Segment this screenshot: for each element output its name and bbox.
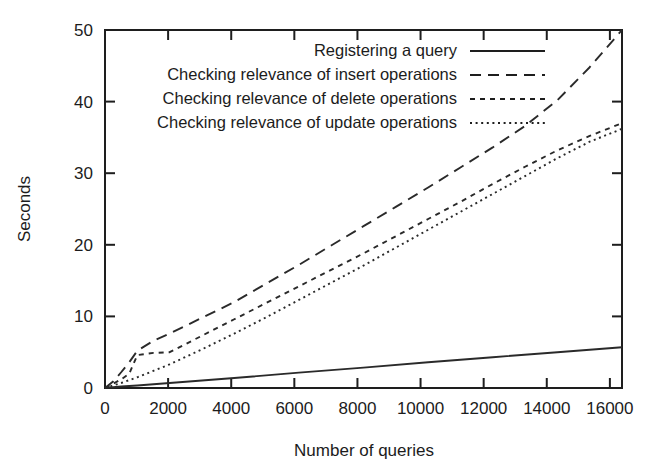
x-tick-label: 0 bbox=[100, 399, 109, 418]
x-tick-label: 8000 bbox=[339, 399, 377, 418]
x-tick-label: 16000 bbox=[586, 399, 633, 418]
y-tick-label: 0 bbox=[84, 379, 93, 398]
y-tick-label: 10 bbox=[74, 307, 93, 326]
x-axis-tick-labels: 0200040006000800010000120001400016000 bbox=[100, 399, 633, 418]
y-axis-title: Seconds bbox=[15, 176, 34, 242]
legend-label-2: Checking relevance of delete operations bbox=[163, 89, 457, 107]
x-tick-label: 12000 bbox=[460, 399, 507, 418]
legend-label-3: Checking relevance of update operations bbox=[157, 113, 457, 131]
legend-label-1: Checking relevance of insert operations bbox=[167, 65, 457, 83]
x-tick-label: 6000 bbox=[275, 399, 313, 418]
y-tick-label: 30 bbox=[74, 164, 93, 183]
x-tick-label: 4000 bbox=[212, 399, 250, 418]
line-chart: 01020304050 0200040006000800010000120001… bbox=[0, 0, 647, 468]
y-tick-label: 40 bbox=[74, 93, 93, 112]
chart-figure: 01020304050 0200040006000800010000120001… bbox=[0, 0, 647, 468]
x-tick-label: 10000 bbox=[397, 399, 444, 418]
x-tick-label: 2000 bbox=[149, 399, 187, 418]
legend-label-0: Registering a query bbox=[314, 41, 458, 59]
y-tick-label: 50 bbox=[74, 21, 93, 40]
y-tick-label: 20 bbox=[74, 236, 93, 255]
x-tick-label: 14000 bbox=[523, 399, 570, 418]
x-axis-title: Number of queries bbox=[294, 441, 434, 460]
